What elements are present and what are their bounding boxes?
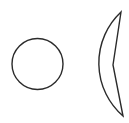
diagram-svg <box>0 0 129 123</box>
notched-sector-shape <box>99 12 123 116</box>
diagram-canvas <box>0 0 129 123</box>
circle-shape <box>12 39 63 90</box>
